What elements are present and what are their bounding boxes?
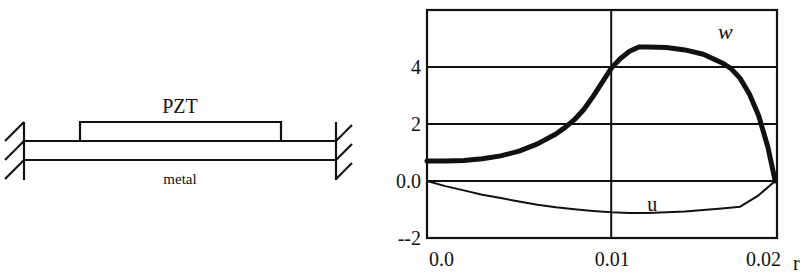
x-axis-label: r bbox=[793, 252, 800, 274]
metal-label: metal bbox=[163, 171, 196, 187]
x-tick-label: 0.02 bbox=[746, 248, 781, 270]
y-tick-label: 4 bbox=[411, 56, 421, 78]
right-hatch bbox=[336, 144, 352, 160]
right-hatch bbox=[336, 125, 352, 141]
chart: 420.0--2 0.00.010.02 r wu bbox=[396, 10, 800, 274]
figure: PZT metal 420.0--2 0.00.010.02 r wu bbox=[0, 0, 806, 280]
left-hatch bbox=[5, 141, 24, 160]
left-hatch bbox=[5, 122, 24, 141]
x-tick-labels: 0.00.010.02 bbox=[429, 248, 781, 270]
left-hatch bbox=[5, 160, 24, 179]
series-line-u bbox=[427, 181, 775, 213]
pzt-label: PZT bbox=[162, 95, 198, 117]
pzt-layer bbox=[80, 122, 281, 141]
right-hatch bbox=[336, 163, 352, 179]
y-tick-label: 2 bbox=[411, 113, 421, 135]
x-tick-label: 0.0 bbox=[429, 248, 454, 270]
series-group bbox=[427, 47, 775, 213]
y-tick-labels: 420.0--2 bbox=[396, 56, 421, 249]
y-tick-label: --2 bbox=[398, 227, 421, 249]
x-tick-label: 0.01 bbox=[595, 248, 630, 270]
series-label-w: w bbox=[718, 19, 733, 44]
series-label-u: u bbox=[647, 193, 657, 215]
grid bbox=[427, 10, 777, 238]
y-tick-label: 0.0 bbox=[396, 170, 421, 192]
